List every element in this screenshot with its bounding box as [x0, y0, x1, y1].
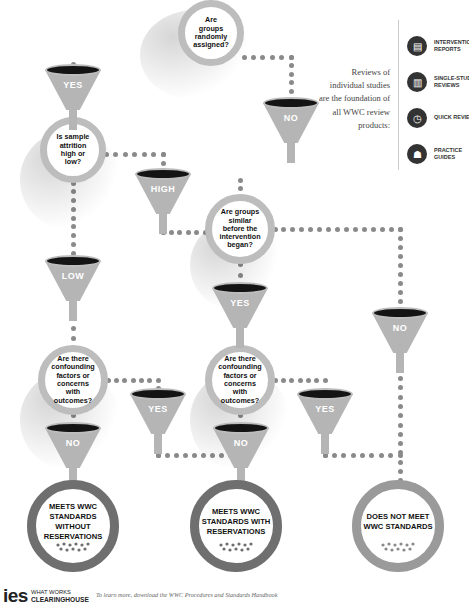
- funnel-label: YES: [130, 404, 186, 414]
- logo-ies: ies: [3, 585, 28, 607]
- result-text: DOES NOT MEET WWC STANDARDS: [361, 512, 435, 532]
- product-label: INTERVENTION REPORTS: [434, 39, 469, 53]
- funnel-label: LOW: [45, 271, 101, 281]
- funnel-yes-randomized: YES: [45, 64, 101, 134]
- product-practice-guides: ☗ PRACTICE GUIDES: [407, 144, 469, 164]
- product-label: PRACTICE GUIDES: [434, 147, 469, 161]
- funnel-label: NO: [213, 438, 269, 448]
- funnel-label: YES: [297, 404, 353, 414]
- result-meets-with-reservations: MEETS WWC STANDARDS WITH RESERVATIONS: [190, 480, 282, 572]
- pebbles-icon: [54, 541, 94, 553]
- funnel-yes-confounding-right: YES: [297, 388, 353, 458]
- question-groups-similar: Are groups similar before the interventi…: [205, 194, 275, 264]
- question-text: Are groups randomly assigned?: [185, 16, 237, 49]
- question-text: Is sample attrition high or low?: [47, 133, 99, 166]
- funnel-label: YES: [212, 298, 268, 308]
- funnel-label: NO: [372, 323, 428, 333]
- pebbles-icon: [217, 541, 257, 553]
- funnel-label: HIGH: [135, 184, 191, 194]
- product-label: QUICK REVIEWS: [434, 114, 469, 121]
- funnel-yes-similar: YES: [212, 282, 268, 352]
- funnel-yes-confounding-left: YES: [130, 388, 186, 458]
- result-text: MEETS WWC STANDARDS WITH RESERVATIONS: [199, 507, 273, 537]
- question-text: Are there confounding factors or concern…: [43, 355, 103, 405]
- pebbles-icon: [379, 541, 419, 553]
- logo-line2: CLEARINGHOUSE: [31, 596, 89, 603]
- question-text: Are there confounding factors or concern…: [210, 355, 270, 405]
- stopwatch-icon: ◷: [407, 108, 427, 128]
- person-laptop-icon: ☗: [407, 144, 427, 164]
- question-confounding-left: Are there confounding factors or concern…: [38, 345, 108, 415]
- question-randomly-assigned: Are groups randomly assigned?: [178, 0, 244, 66]
- funnel-low-attrition: LOW: [45, 255, 101, 325]
- product-single-study-reviews: ▥ SINGLE-STUDY REVIEWS: [407, 72, 469, 92]
- funnel-label: NO: [45, 438, 101, 448]
- sidebar-intro: Reviews of individual studies are the fo…: [318, 66, 390, 132]
- funnel-high-attrition: HIGH: [135, 168, 191, 238]
- result-does-not-meet: DOES NOT MEET WWC STANDARDS: [352, 480, 444, 572]
- sidebar-divider: [398, 20, 399, 170]
- question-text: Are groups similar before the interventi…: [211, 208, 268, 249]
- product-label: SINGLE-STUDY REVIEWS: [434, 75, 469, 89]
- result-meets-without-reservations: MEETS WWC STANDARDS WITHOUT RESERVATIONS: [27, 480, 119, 572]
- funnel-label: NO: [263, 113, 319, 123]
- question-confounding-right: Are there confounding factors or concern…: [205, 345, 275, 415]
- logo-line1: WHAT WORKS: [31, 589, 71, 595]
- logo-wwc: WHAT WORKS CLEARINGHOUSE: [31, 589, 89, 603]
- funnel-no-randomized: NO: [263, 97, 319, 167]
- chart-document-icon: ▥: [407, 72, 427, 92]
- result-text: MEETS WWC STANDARDS WITHOUT RESERVATIONS: [36, 502, 110, 541]
- funnel-no-similar: NO: [372, 307, 428, 377]
- product-intervention-reports: ▤ INTERVENTION REPORTS: [407, 36, 469, 56]
- footer-handbook-note: To learn more, download the WWC Procedur…: [96, 591, 277, 598]
- product-quick-reviews: ◷ QUICK REVIEWS: [407, 108, 469, 128]
- funnel-label: YES: [45, 80, 101, 90]
- report-icon: ▤: [407, 36, 427, 56]
- ies-wwc-logo: ies WHAT WORKS CLEARINGHOUSE: [3, 585, 89, 607]
